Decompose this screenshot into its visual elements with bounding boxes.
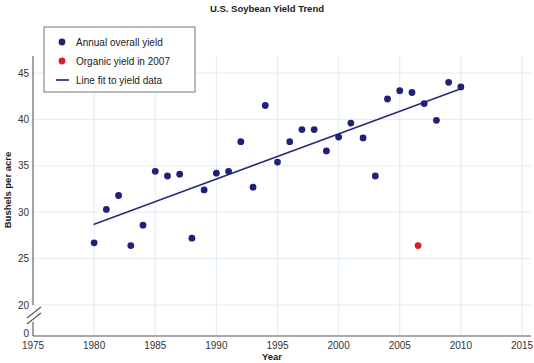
legend-item-label: Line fit to yield data xyxy=(76,75,163,86)
legend-item-label: Organic yield in 2007 xyxy=(76,56,170,67)
x-tick-label: 2010 xyxy=(450,340,473,351)
x-tick-label: 2000 xyxy=(328,340,351,351)
data-point-annual-yield xyxy=(323,148,330,155)
data-point-annual-yield xyxy=(201,187,208,194)
x-tick-label: 2015 xyxy=(511,340,534,351)
data-point-annual-yield xyxy=(286,138,293,145)
data-point-annual-yield xyxy=(299,126,306,133)
data-point-annual-yield xyxy=(445,79,452,86)
y-tick-label-zero: 0 xyxy=(23,328,29,339)
legend-marker-circle xyxy=(59,39,66,46)
x-axis-label: Year xyxy=(262,351,282,362)
y-tick-label: 45 xyxy=(18,68,30,79)
axis-break-mark-upper xyxy=(27,307,41,318)
data-point-annual-yield xyxy=(189,235,196,242)
data-point-annual-yield xyxy=(262,102,269,109)
data-point-annual-yield xyxy=(164,173,171,180)
data-point-annual-yield xyxy=(250,184,257,191)
y-tick-label: 40 xyxy=(18,114,30,125)
y-tick-label: 25 xyxy=(18,253,30,264)
x-tick-label: 1975 xyxy=(22,340,45,351)
data-point-annual-yield xyxy=(396,87,403,94)
gridlines xyxy=(33,56,531,336)
data-point-annual-yield xyxy=(384,96,391,103)
data-point-annual-yield xyxy=(335,134,342,141)
x-tick-label: 2005 xyxy=(389,340,412,351)
data-point-annual-yield xyxy=(372,173,379,180)
chart-title: U.S. Soybean Yield Trend xyxy=(210,3,324,14)
data-point-annual-yield xyxy=(127,242,134,249)
data-point-annual-yield xyxy=(421,100,428,107)
data-point-annual-yield xyxy=(176,171,183,178)
x-tick-label: 1980 xyxy=(83,340,106,351)
data-point-annual-yield xyxy=(225,168,232,175)
legend: Annual overall yieldOrganic yield in 200… xyxy=(44,27,195,92)
axis-break-mark-lower xyxy=(27,313,41,324)
data-point-annual-yield xyxy=(347,120,354,127)
data-point-annual-yield xyxy=(457,84,464,91)
y-axis-label: Bushels per acre xyxy=(2,152,13,229)
y-tick-label: 20 xyxy=(18,300,30,311)
data-point-annual-yield xyxy=(140,222,147,229)
data-point-annual-yield xyxy=(311,126,318,133)
data-point-annual-yield xyxy=(433,117,440,124)
x-tick-label: 1990 xyxy=(205,340,228,351)
legend-marker-circle xyxy=(59,58,66,65)
chart-svg: 2025303540450 19751980198519901995200020… xyxy=(0,0,534,363)
data-point-annual-yield xyxy=(274,159,281,166)
soybean-yield-chart: 2025303540450 19751980198519901995200020… xyxy=(0,0,534,363)
data-point-annual-yield xyxy=(152,168,159,175)
data-point-annual-yield xyxy=(213,170,220,177)
data-point-annual-yield xyxy=(115,192,122,199)
y-axis-ticks: 2025303540450 xyxy=(18,68,30,339)
data-point-annual-yield xyxy=(409,89,416,96)
x-tick-label: 1995 xyxy=(266,340,289,351)
y-tick-label: 30 xyxy=(18,207,30,218)
x-tick-label: 1985 xyxy=(144,340,167,351)
x-axis-ticks: 197519801985199019952000200520102015 xyxy=(22,340,534,351)
data-point-organic-yield xyxy=(415,242,422,249)
axes-group xyxy=(27,56,531,336)
y-tick-label: 35 xyxy=(18,160,30,171)
data-point-annual-yield xyxy=(103,206,110,213)
data-point-annual-yield xyxy=(237,138,244,145)
data-point-annual-yield xyxy=(91,239,98,246)
legend-item-label: Annual overall yield xyxy=(76,37,163,48)
data-point-annual-yield xyxy=(360,135,367,142)
